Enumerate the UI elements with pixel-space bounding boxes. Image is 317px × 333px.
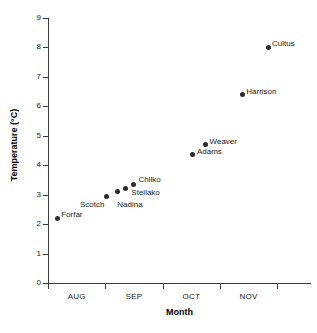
x-axis-line <box>48 283 311 284</box>
y-axis-tick-label-text: 7 <box>19 73 41 81</box>
x-axis-tick <box>277 284 278 289</box>
data-point-label-chilko: Chilko <box>138 176 160 184</box>
y-axis-tick <box>43 136 48 137</box>
y-axis-tick-label-text: 6 <box>19 102 41 110</box>
data-point-nadina <box>115 189 120 194</box>
y-axis-tick-label: 7 <box>0 73 41 81</box>
x-axis-title: Month <box>48 307 311 317</box>
data-point-scotch <box>104 194 109 199</box>
x-axis-tick-label-oct: OCT <box>162 292 220 301</box>
plot-area: 0123456789 AUGSEPOCTNOV ForfarScotchNadi… <box>0 0 317 333</box>
y-axis-tick-label-text: 0 <box>19 279 41 287</box>
y-axis-tick <box>43 47 48 48</box>
data-point-label-cultus: Cultus <box>272 40 295 48</box>
x-axis-tick <box>220 284 221 289</box>
data-point-harrison <box>240 92 245 97</box>
y-axis-tick-label: 0 <box>0 279 41 287</box>
data-point-forfar <box>55 216 60 221</box>
x-axis-tick-label-aug: AUG <box>48 292 106 301</box>
x-axis-tick-label-nov: NOV <box>220 292 278 301</box>
y-axis-tick <box>43 224 48 225</box>
data-point-label-weaver: Weaver <box>210 138 237 146</box>
data-point-chilko <box>131 182 136 187</box>
scatter-chart-figure: 0123456789 AUGSEPOCTNOV ForfarScotchNadi… <box>0 0 317 333</box>
y-axis-tick-label-text: 1 <box>19 250 41 258</box>
x-axis-tick <box>163 284 164 289</box>
y-axis-tick <box>43 165 48 166</box>
x-axis-tick-label-sep: SEP <box>105 292 163 301</box>
y-axis-tick-label: 3 <box>0 191 41 199</box>
y-axis-tick <box>43 18 48 19</box>
y-axis-tick-label-text: 8 <box>19 43 41 51</box>
y-axis-tick-label-text: 2 <box>19 220 41 228</box>
y-axis-tick-label: 4 <box>0 161 41 169</box>
y-axis-tick-label-text: 3 <box>19 191 41 199</box>
y-axis-title: Temperature (°C) <box>9 80 19 210</box>
y-axis-tick-label: 1 <box>0 250 41 258</box>
data-point-label-stellako: Stellako <box>131 189 159 197</box>
data-point-label-nadina: Nadina <box>117 201 142 209</box>
y-axis-tick <box>43 106 48 107</box>
data-point-label-adams: Adams <box>197 148 222 156</box>
data-point-label-harrison: Harrison <box>246 88 276 96</box>
y-axis-line <box>48 18 49 284</box>
data-point-label-forfar: Forfar <box>61 211 82 219</box>
y-axis-tick-label-text: 4 <box>19 161 41 169</box>
y-axis-tick-label-text: 9 <box>19 14 41 22</box>
y-axis-tick-label: 6 <box>0 102 41 110</box>
y-axis-tick-label: 9 <box>0 14 41 22</box>
y-axis-tick-label: 8 <box>0 43 41 51</box>
data-point-cultus <box>266 45 271 50</box>
x-axis-tick <box>48 284 49 289</box>
y-axis-tick <box>43 77 48 78</box>
y-axis-tick-label: 2 <box>0 220 41 228</box>
data-point-adams <box>190 152 195 157</box>
data-point-stellako <box>123 186 128 191</box>
y-axis-tick-label-text: 5 <box>19 132 41 140</box>
y-axis-tick <box>43 195 48 196</box>
y-axis-tick-label: 5 <box>0 132 41 140</box>
y-axis-tick <box>43 254 48 255</box>
x-axis-tick <box>105 284 106 289</box>
